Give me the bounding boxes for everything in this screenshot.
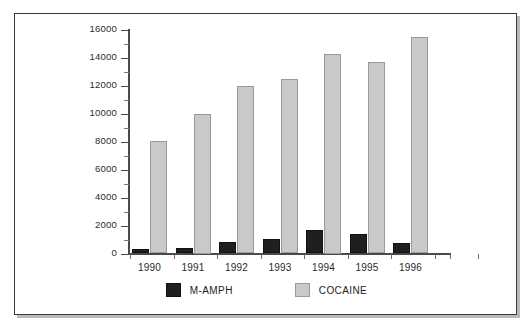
bar-cocaine: [411, 37, 428, 253]
bar-cocaine: [194, 114, 211, 254]
x-tick: [478, 254, 479, 259]
y-minor-tick: [124, 44, 129, 45]
x-tick-label: 1991: [171, 262, 215, 273]
y-tick-label: 14000: [59, 51, 117, 62]
y-major-tick: [121, 30, 129, 31]
chart-legend: M-AMPHCOCAINE: [15, 283, 518, 297]
x-tick: [217, 254, 218, 259]
y-tick-label: 2000: [59, 219, 117, 230]
bar-cocaine: [150, 141, 167, 254]
x-tick: [435, 254, 436, 259]
y-major-tick: [121, 170, 129, 171]
legend-label: M-AMPH: [190, 285, 233, 296]
x-tick: [130, 254, 131, 259]
legend-swatch-m-amph: [166, 283, 181, 297]
y-tick-label: 12000: [59, 79, 117, 90]
legend-swatch-cocaine: [295, 283, 310, 297]
bar-cocaine: [237, 86, 254, 253]
y-tick-label: 8000: [59, 135, 117, 146]
figure-frame: 0200040006000800010000120001400016000 19…: [14, 13, 517, 315]
legend-item: COCAINE: [295, 283, 367, 297]
x-tick-label: 1996: [389, 262, 433, 273]
y-minor-tick: [124, 184, 129, 185]
x-axis-end-tick: [450, 254, 451, 259]
legend-label: COCAINE: [319, 285, 367, 296]
y-minor-tick: [124, 156, 129, 157]
bar-m-amph: [219, 242, 236, 253]
y-tick-label: 16000: [59, 23, 117, 34]
x-tick: [348, 254, 349, 259]
y-major-tick: [121, 58, 129, 59]
x-tick-label: 1993: [258, 262, 302, 273]
x-tick: [304, 254, 305, 259]
bar-cocaine: [281, 79, 298, 253]
bar-m-amph: [350, 234, 367, 254]
x-tick-label: 1994: [302, 262, 346, 273]
bar-m-amph: [306, 230, 323, 253]
x-tick-label: 1992: [215, 262, 259, 273]
x-tick: [174, 254, 175, 259]
y-major-tick: [121, 86, 129, 87]
bar-cocaine: [324, 54, 341, 254]
bar-m-amph: [176, 248, 193, 253]
legend-item: M-AMPH: [166, 283, 233, 297]
y-major-tick: [121, 114, 129, 115]
y-minor-tick: [124, 128, 129, 129]
y-major-tick: [121, 198, 129, 199]
y-axis-labels: 0200040006000800010000120001400016000: [53, 14, 117, 316]
x-tick-label: 1990: [128, 262, 172, 273]
bar-m-amph: [393, 243, 410, 253]
y-major-tick: [121, 142, 129, 143]
bar-m-amph: [132, 249, 149, 254]
y-minor-tick: [124, 72, 129, 73]
y-minor-tick: [124, 212, 129, 213]
x-tick: [391, 254, 392, 259]
y-tick-label: 4000: [59, 191, 117, 202]
y-tick-label: 6000: [59, 163, 117, 174]
y-minor-tick: [124, 100, 129, 101]
bar-cocaine: [368, 62, 385, 254]
y-tick-label: 10000: [59, 107, 117, 118]
y-tick-label: 0: [59, 247, 117, 258]
y-minor-tick: [124, 240, 129, 241]
x-tick-label: 1995: [345, 262, 389, 273]
bar-chart: 0200040006000800010000120001400016000 19…: [15, 14, 518, 316]
x-tick: [261, 254, 262, 259]
y-major-tick: [121, 254, 129, 255]
bar-m-amph: [263, 239, 280, 254]
y-major-tick: [121, 226, 129, 227]
